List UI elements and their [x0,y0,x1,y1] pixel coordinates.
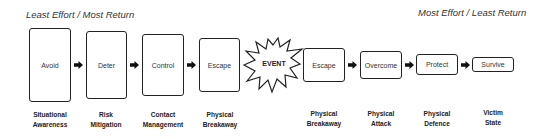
stage-label: Protect [426,61,448,68]
stage-label: Escape [312,62,335,69]
stage-label: Avoid [41,62,58,69]
stage-box-deter: Deter [86,31,127,99]
category-label: PhysicalBreakaway [185,110,255,129]
stage-box-escape-pre: Escape [199,38,240,92]
stage-box-survive: Survive [472,57,514,72]
stage-box-protect: Protect [416,54,458,75]
stage-label: Survive [481,61,504,68]
event-label: EVENT [256,60,292,67]
right-arrow-icon [461,61,470,69]
stage-label: Control [152,62,175,69]
right-arrow-icon [187,61,196,69]
right-arrow-icon [348,61,357,69]
stage-box-control: Control [142,34,184,96]
stage-box-overcome: Overcome [360,51,402,79]
stage-box-avoid: Avoid [29,28,71,102]
caption-most-effort: Most Effort / Least Return [418,7,526,18]
right-arrow-icon [405,61,414,69]
caption-least-effort: Least Effort / Most Return [26,9,134,20]
stage-box-escape-post: Escape [303,48,345,82]
right-arrow-icon [130,61,139,69]
stage-label: Deter [98,62,115,69]
stage-label: Overcome [365,62,397,69]
right-arrow-icon [74,61,83,69]
category-label: VictimState [458,108,528,127]
stage-label: Escape [208,62,231,69]
